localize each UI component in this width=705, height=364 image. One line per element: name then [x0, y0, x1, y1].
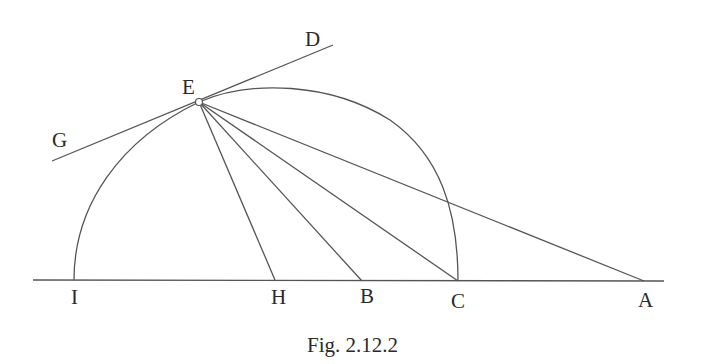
label-g: G — [52, 130, 67, 151]
baseline — [33, 280, 664, 281]
point-e-marker — [196, 99, 203, 106]
geometry-figure: D E G I H B C A Fig. 2.12.2 — [0, 0, 705, 364]
label-c: C — [451, 291, 465, 312]
label-h: H — [271, 287, 286, 308]
figure-caption: Fig. 2.12.2 — [0, 333, 705, 358]
segment-eb — [199, 102, 362, 281]
segment-ea — [199, 102, 644, 281]
label-d: D — [305, 29, 320, 50]
tangent-line-gd — [52, 45, 333, 161]
arc-e-c — [199, 88, 458, 281]
arc-i-e — [74, 102, 199, 280]
label-i: I — [71, 287, 78, 308]
label-a: A — [638, 290, 653, 311]
label-e: E — [182, 77, 195, 98]
label-b: B — [360, 286, 374, 307]
diagram-canvas — [0, 0, 705, 364]
